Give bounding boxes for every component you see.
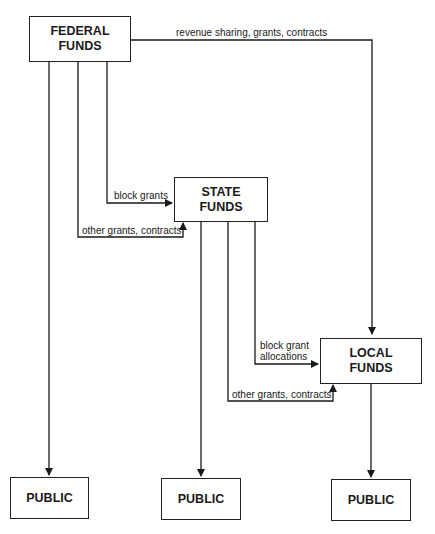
edge-label-block-grant-allocations-1: block grant <box>260 340 309 351</box>
connector-lines <box>0 0 435 534</box>
public-3-label: PUBLIC <box>348 493 395 508</box>
edge-label-block-grants: block grants <box>114 190 168 201</box>
public-node-3: PUBLIC <box>331 479 411 521</box>
local-line1: LOCAL <box>349 346 392 361</box>
federal-line2: FUNDS <box>50 39 109 54</box>
edge-label-state-other-grants: other grants, contracts <box>232 389 332 400</box>
federal-funds-node: FEDERALFUNDS <box>29 16 131 62</box>
edge-label-revenue-sharing: revenue sharing, grants, contracts <box>176 27 327 38</box>
state-line2: FUNDS <box>199 200 242 215</box>
public-node-2: PUBLIC <box>161 478 241 520</box>
public-2-label: PUBLIC <box>178 492 225 507</box>
state-line1: STATE <box>199 185 242 200</box>
federal-line1: FEDERAL <box>50 24 109 39</box>
public-node-1: PUBLIC <box>10 477 89 519</box>
local-line2: FUNDS <box>349 361 392 376</box>
edge-label-federal-other-grants: other grants, contracts <box>82 225 182 236</box>
edge-label-block-grant-allocations-2: allocations <box>260 351 307 362</box>
local-funds-node: LOCALFUNDS <box>320 338 422 384</box>
public-1-label: PUBLIC <box>26 491 73 506</box>
state-funds-node: STATEFUNDS <box>174 177 268 222</box>
